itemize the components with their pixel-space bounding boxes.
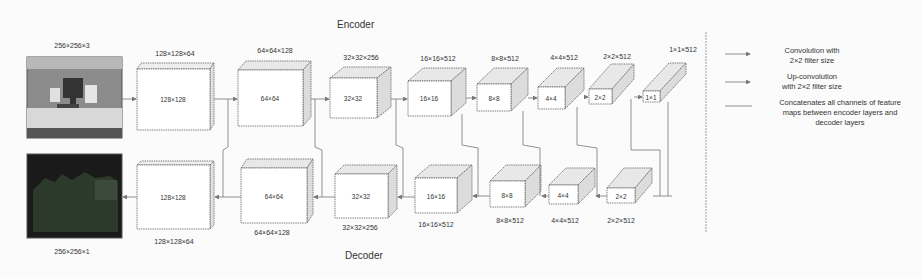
encoder-block-4-face: 16×16: [420, 95, 438, 102]
legend-item-up-convolution: Up-convolution with 2×2 filter size: [762, 72, 862, 92]
unet-diagram-shapes: [0, 0, 921, 279]
encoder-block-3-face: 32×32: [344, 95, 362, 102]
decoder-block-1-face: 128×128: [160, 194, 186, 201]
encoder-block-7-face: 2×2: [594, 94, 605, 101]
decoder-block-6-face: 4×4: [557, 192, 568, 199]
output-image-label: 256×256×1: [54, 248, 89, 255]
encoder-title: Encoder: [337, 19, 374, 30]
decoder-block-3-face: 32×32: [352, 193, 370, 200]
encoder-block-2-face: 64×64: [261, 95, 279, 102]
decoder-block-2-face: 64×64: [265, 193, 283, 200]
input-image-label: 256×256×3: [54, 42, 89, 49]
encoder-block-1-size: 128×128×64: [155, 50, 194, 57]
encoder-block-5-size: 8×8×512: [491, 55, 519, 62]
encoder-block-6-size: 4×4×512: [550, 54, 578, 61]
encoder-block-5-face: 8×8: [488, 95, 499, 102]
decoder-block-7-face: 2×2: [615, 193, 626, 200]
decoder-block-6-size: 4×4×512: [551, 217, 579, 224]
legend-item-concatenation: Concatenates all channels of feature map…: [770, 98, 910, 128]
input-image: [27, 57, 122, 138]
decoder-block-4-face: 16×16: [427, 193, 445, 200]
encoder-block-8-face: 1×1: [645, 94, 656, 101]
decoder-block-3-size: 32×32×256: [342, 224, 377, 231]
encoder-block-1-face: 128×128: [160, 96, 186, 103]
encoder-block-4-size: 16×16×512: [420, 55, 455, 62]
encoder-block-6-face: 4×4: [545, 95, 556, 102]
decoder-block-4-size: 16×16×512: [418, 221, 453, 228]
encoder-block-3-size: 32×32×256: [343, 54, 378, 61]
decoder-title: Decoder: [345, 250, 383, 261]
encoder-block-8-size: 1×1×512: [669, 46, 697, 53]
decoder-block-7-size: 2×2×512: [607, 217, 635, 224]
output-image: [27, 154, 122, 238]
decoder-block-5-size: 8×8×512: [496, 217, 524, 224]
legend-item-convolution: Convolution with 2×2 filter size: [762, 46, 862, 66]
decoder-block-1-size: 128×128×64: [154, 238, 193, 245]
decoder-block-2-size: 64×64×128: [254, 229, 289, 236]
encoder-block-2-size: 64×64×128: [257, 47, 292, 54]
decoder-block-5-face: 8×8: [501, 192, 512, 199]
encoder-block-7-size: 2×2×512: [603, 53, 631, 60]
